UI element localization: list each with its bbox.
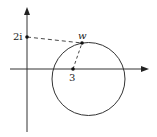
point-2i	[25, 35, 29, 39]
imaginary-axis-arrow-icon	[24, 7, 30, 15]
locus-circle	[52, 43, 125, 116]
real-axis-arrow-icon	[141, 66, 149, 72]
label-2i: 2i	[13, 31, 23, 42]
label-w: w	[78, 30, 87, 41]
label-3: 3	[69, 72, 75, 83]
point-w	[80, 41, 84, 45]
dashed-segment-2i-to-w	[27, 37, 82, 43]
complex-plane-diagram: 2i 3 w	[0, 0, 157, 137]
dashed-segment-3-to-w	[73, 43, 82, 69]
point-3	[71, 67, 75, 71]
